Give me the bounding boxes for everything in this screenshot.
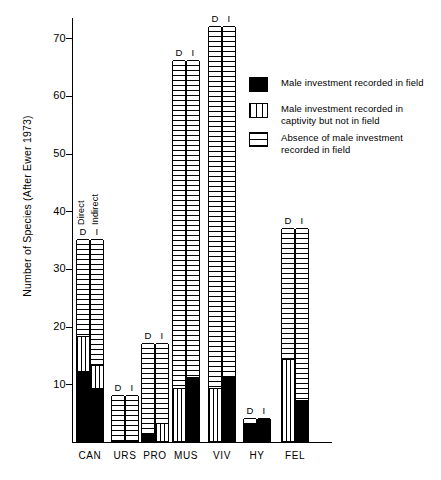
bar-segment — [77, 239, 89, 337]
bar-mus-d[interactable] — [172, 61, 186, 442]
bar-segment — [173, 60, 185, 389]
bar-segment — [223, 26, 235, 378]
legend-swatch-solid-black — [249, 77, 268, 92]
bar-pro-i[interactable] — [155, 344, 169, 442]
y-tick-mark — [66, 269, 72, 270]
bar-sublabel-pro-d: D — [141, 331, 155, 341]
bar-segment — [126, 395, 138, 441]
y-tick-30: 30 — [0, 263, 66, 274]
bar-segment — [258, 418, 270, 441]
segment-divider — [244, 423, 256, 424]
segment-divider — [223, 377, 235, 378]
bar-sublabel-mus-d: D — [172, 48, 186, 58]
bar-segment — [77, 372, 89, 441]
bar-hy-d[interactable] — [243, 419, 257, 442]
y-axis-title: Number of Species (After Ewer 1973) — [21, 111, 33, 301]
annotation-indirect: Indirect — [90, 194, 100, 225]
bar-viv-i[interactable] — [222, 27, 236, 442]
segment-divider — [156, 423, 168, 424]
segment-divider — [77, 371, 89, 372]
bar-segment — [209, 26, 221, 389]
segment-divider — [173, 388, 185, 389]
bar-segment — [296, 228, 308, 401]
y-tick-label: 60 — [42, 90, 66, 101]
segment-divider — [187, 377, 199, 378]
y-tick-60: 60 — [0, 90, 66, 101]
bar-viv-d[interactable] — [208, 27, 222, 442]
y-tick-10: 10 — [0, 379, 66, 390]
legend-swatch-vertical-stripes — [249, 103, 268, 118]
y-tick-label: 70 — [42, 33, 66, 44]
bar-sublabel-hy-d: D — [243, 406, 257, 416]
bar-segment — [142, 343, 154, 435]
segment-divider — [91, 388, 103, 389]
bar-fel-i[interactable] — [295, 229, 309, 442]
y-tick-label: 50 — [42, 148, 66, 159]
bar-segment — [209, 389, 221, 441]
y-tick-70: 70 — [0, 33, 66, 44]
bar-sublabel-hy-i: I — [257, 406, 271, 416]
bar-urs-i[interactable] — [125, 396, 139, 442]
legend-item-1[interactable]: Male investment recorded in captivity bu… — [249, 103, 439, 126]
y-tick-20: 20 — [0, 321, 66, 332]
bar-segment — [296, 401, 308, 441]
segment-divider — [282, 359, 294, 360]
y-tick-50: 50 — [0, 148, 66, 159]
bar-segment — [173, 389, 185, 441]
y-tick-mark — [66, 211, 72, 212]
legend-swatch-horizontal-stripes — [249, 132, 268, 147]
y-tick-mark — [66, 96, 72, 97]
bar-segment — [187, 378, 199, 441]
bar-sublabel-pro-i: I — [155, 331, 169, 341]
x-axis-label-fel: FEL — [273, 450, 317, 461]
bar-segment — [282, 360, 294, 441]
bar-mus-i[interactable] — [186, 61, 200, 442]
annotation-direct: Direct — [76, 200, 86, 225]
bar-segment — [223, 378, 235, 441]
y-tick-label: 10 — [42, 379, 66, 390]
y-tick-label: 20 — [42, 321, 66, 332]
y-tick-mark — [66, 384, 72, 385]
bar-sublabel-fel-d: D — [281, 216, 295, 226]
bar-segment — [91, 389, 103, 441]
y-tick-40: 40 — [0, 206, 66, 217]
bar-sublabel-urs-i: I — [125, 383, 139, 393]
legend-label: Absence of male investment recorded in f… — [281, 132, 439, 155]
bar-segment — [244, 424, 256, 441]
bar-sublabel-can-i: I — [90, 227, 104, 237]
bar-hy-i[interactable] — [257, 419, 271, 442]
legend-item-2[interactable]: Absence of male investment recorded in f… — [249, 132, 439, 155]
segment-divider — [77, 336, 89, 337]
segment-divider — [142, 434, 154, 435]
bar-sublabel-viv-i: I — [222, 14, 236, 24]
bar-segment — [91, 366, 103, 389]
y-tick-mark — [66, 327, 72, 328]
chart-legend: Male investment recorded in fieldMale in… — [249, 77, 439, 161]
bar-segment — [187, 60, 199, 377]
bar-segment — [77, 337, 89, 372]
y-tick-mark — [66, 38, 72, 39]
y-tick-mark — [66, 154, 72, 155]
bar-sublabel-mus-i: I — [186, 48, 200, 58]
bar-urs-d[interactable] — [111, 396, 125, 442]
bar-fel-d[interactable] — [281, 229, 295, 442]
x-axis-line — [72, 442, 332, 443]
y-axis-line — [72, 18, 73, 443]
bar-segment — [282, 228, 294, 361]
chart-figure: 70605040302010 Number of Species (After … — [0, 0, 441, 480]
legend-item-0[interactable]: Male investment recorded in field — [249, 77, 439, 97]
segment-divider — [209, 388, 221, 389]
bar-segment — [91, 239, 103, 366]
bar-segment — [142, 435, 154, 441]
bar-can-i[interactable] — [90, 240, 104, 442]
y-tick-label: 40 — [42, 206, 66, 217]
legend-label: Male investment recorded in captivity bu… — [281, 103, 439, 126]
bar-sublabel-fel-i: I — [295, 216, 309, 226]
segment-divider — [91, 365, 103, 366]
bar-segment — [156, 424, 168, 441]
bar-sublabel-urs-d: D — [111, 383, 125, 393]
bar-pro-d[interactable] — [141, 344, 155, 442]
bar-segment — [112, 395, 124, 441]
bar-can-d[interactable] — [76, 240, 90, 442]
legend-label: Male investment recorded in field — [281, 77, 439, 89]
